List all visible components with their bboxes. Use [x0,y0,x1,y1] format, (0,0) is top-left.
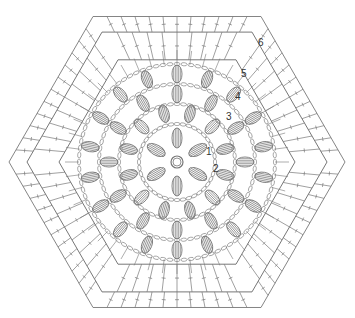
round-5-stitch [190,259,192,273]
chain-stitch [77,166,81,172]
chain-stitch [214,70,221,75]
chain-stitch [242,198,248,205]
chain-stitch [138,147,143,154]
chain-stitch [110,203,116,210]
chain-stitch [188,257,194,261]
round-5-stitch [66,147,80,149]
chain-stitch [229,214,236,221]
round-6-stitch-bar [56,137,57,141]
chain-stitch [250,179,255,186]
round-5-stitch [215,59,220,72]
chain-stitch [137,159,140,165]
crochet-hexagon-chart: 123456 [0,0,355,318]
cluster-stitch [224,219,243,239]
chain-stitch [242,120,248,127]
chain-stitch [233,165,237,171]
chain-stitch [117,165,121,171]
chain-stitch [219,122,225,129]
edge-stitch-bar [31,183,32,187]
chain-stitch [83,124,88,131]
chain-stitch [212,153,216,159]
chain-stitch [250,139,255,146]
cluster-stitch [100,157,118,167]
edge-stitch-bar [63,241,65,244]
chain-stitch [263,118,268,125]
round-6-stitch-bar [56,183,57,187]
chain-stitch [181,238,187,242]
chain-stitch [168,197,174,201]
chain-stitch [137,114,144,120]
chain-stitch [154,214,161,219]
chain-stitch [100,95,106,102]
chain-stitch [229,178,234,185]
chain-stitch [238,233,245,239]
chain-stitch [133,70,140,75]
chain-stitch [117,152,121,158]
chain-stitch [227,241,234,247]
chain-stitch [160,257,166,261]
cluster-stitch [172,128,182,148]
edge-stitch-bar [322,183,323,187]
chain-stitch [114,109,120,116]
chain-stitch [227,77,234,83]
chain-stitch [201,254,208,259]
cluster-stitch [172,176,182,196]
chain-stitch [153,256,160,260]
round-5-stitch [190,51,192,65]
chain-stitch [174,122,180,125]
chain-stitch [252,217,258,224]
round-6-stitch-bar [148,278,152,279]
chain-stitch [78,173,82,179]
chain-stitch [210,114,217,120]
round-6-stitch-bar [297,137,298,141]
chain-stitch [193,105,200,110]
chain-stitch [210,204,217,210]
round-6-stitch-bar [249,265,252,267]
chain-stitch [162,123,169,128]
edge-stitch-bar [288,241,290,244]
chain-stitch [141,89,148,94]
chain-stitch [121,77,128,83]
chain-stitch [160,237,166,241]
cluster-stitch [254,140,273,153]
chain-stitch [135,92,142,98]
round-5-stitch [121,65,128,77]
chain-stitch [121,241,128,247]
chain-stitch [234,209,240,216]
chain-stitch [114,209,120,216]
round-5-stitch [202,257,206,271]
chart-stitches [9,17,345,308]
edge-stitch-bar [63,80,65,83]
chain-stitch [101,132,106,139]
chain-stitch [81,186,86,193]
chain-stitch [110,233,117,239]
chain-stitch [180,102,186,106]
chain-stitch [129,95,136,101]
chain-stitch [101,185,106,192]
chain-stitch [133,248,140,253]
round-6-stitch-bar [297,183,298,187]
cluster-stitch [172,241,182,259]
cluster-stitch [111,219,130,239]
chain-stitch [253,152,257,158]
chain-stitch [139,251,146,256]
round-5-stitch [162,51,164,65]
chain-stitch [174,198,180,201]
chain-stitch [207,230,214,235]
round-5-stitch [226,65,233,77]
chain-stitch [219,195,225,202]
edge-stitch-bar [149,24,153,25]
chain-stitch [208,251,215,256]
chain-stitch [213,227,220,233]
chain-stitch [218,223,225,229]
edge-stitch-bar [37,126,38,130]
chain-stitch [138,170,143,177]
cluster-stitch [172,85,182,103]
chain-stitch [238,203,244,210]
round-5-stitch [109,240,118,251]
chain-stitch [107,198,113,205]
chain-stitch [154,235,161,240]
chain-stitch [272,173,276,179]
chain-stitch [188,63,194,67]
chain-stitch [154,84,161,89]
